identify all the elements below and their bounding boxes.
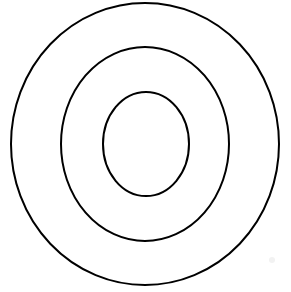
figure-root: Concentric circles target outline Line d… — [0, 0, 291, 292]
inner-ring — [103, 92, 189, 196]
faint-smudge-artifact — [269, 257, 275, 263]
concentric-circles-figure: Concentric circles target outline Line d… — [0, 0, 291, 292]
